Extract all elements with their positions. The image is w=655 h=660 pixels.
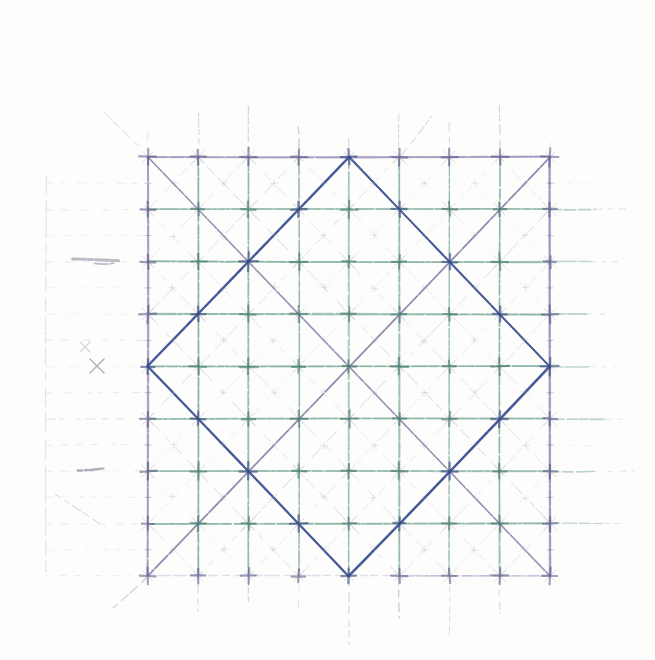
pencil-grid-figure bbox=[0, 0, 655, 660]
sketch-page bbox=[0, 0, 655, 660]
sketch-svg bbox=[0, 0, 655, 660]
